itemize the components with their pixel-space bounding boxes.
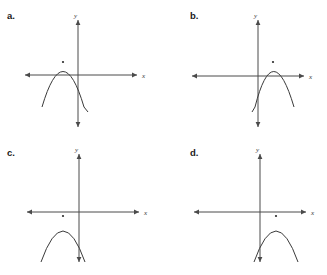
x-axis-arrow-left-a [25, 73, 30, 78]
x-axis-arrow-right-c [134, 210, 139, 215]
plot-d: x y [164, 138, 327, 275]
x-axis-arrow-right-a [132, 73, 137, 78]
x-axis-label-a: x [141, 72, 146, 80]
y-axis-label-c: y [74, 146, 79, 154]
vertex-dot-d [275, 215, 277, 217]
x-axis-arrow-right-b [299, 74, 304, 79]
y-axis-label-a: y [73, 12, 78, 20]
y-axis-label-d: y [255, 146, 260, 154]
figure-panel-d: d. x y [164, 138, 327, 275]
plot-b: x y [164, 0, 327, 138]
vertex-dot-a [62, 61, 64, 63]
y-axis-label-b: y [253, 12, 258, 20]
y-axis-arrow-top-c [77, 154, 82, 159]
figure-panel-a: a. x y [0, 0, 164, 138]
figure-panel-c: c. x y [0, 138, 164, 275]
parabola-curve-a [42, 72, 88, 113]
x-axis-label-b: x [308, 73, 313, 81]
x-axis-arrow-right-d [301, 210, 306, 215]
y-axis-arrow-top-a [76, 20, 81, 25]
x-axis-label-d: x [310, 209, 315, 217]
x-axis-arrow-left-c [27, 210, 32, 215]
figure-panel-b: b. x y [164, 0, 327, 138]
plot-c: x y [0, 138, 164, 275]
y-axis-arrow-bottom-a [76, 122, 81, 127]
y-axis-arrow-bottom-b [256, 122, 261, 127]
vertex-dot-b [272, 61, 274, 63]
figure-grid: a. x y b. x [0, 0, 327, 275]
y-axis-arrow-bottom-d [258, 257, 263, 262]
x-axis-arrow-left-d [194, 210, 199, 215]
y-axis-arrow-bottom-c [77, 257, 82, 262]
plot-a: x y [0, 0, 164, 138]
y-axis-arrow-top-d [258, 154, 263, 159]
x-axis-label-c: x [143, 209, 148, 217]
vertex-dot-c [62, 215, 64, 217]
x-axis-arrow-left-b [192, 74, 197, 79]
y-axis-arrow-top-b [256, 20, 261, 25]
